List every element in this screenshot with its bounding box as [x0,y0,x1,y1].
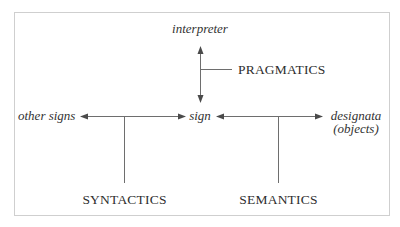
node-sign: sign [189,108,211,123]
node-other-signs: other signs [18,108,75,123]
syntactics-arrow [80,114,186,184]
arrowhead-up [198,46,204,54]
arrowhead-left [216,114,224,120]
relation-semantics: SEMANTICS [239,192,317,207]
pragmatics-arrow [198,46,233,103]
arrowhead-left [80,114,88,120]
relation-syntactics: SYNTACTICS [82,192,166,207]
arrowhead-right [315,114,323,120]
arrowhead-right [178,114,186,120]
arrowhead-down [198,95,204,103]
node-designata-objects: (objects) [333,121,378,136]
relation-pragmatics: PRAGMATICS [238,62,326,77]
semiotics-diagram: interpreter PRAGMATICS sign other signs … [0,0,400,227]
node-interpreter: interpreter [172,21,229,36]
semantics-arrow [216,114,323,184]
